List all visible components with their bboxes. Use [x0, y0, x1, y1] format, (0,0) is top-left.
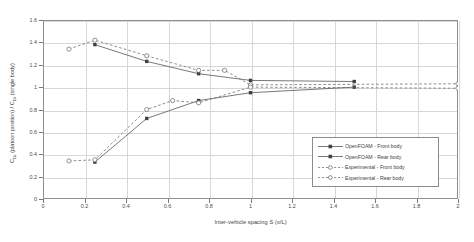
- data-point-square: [249, 91, 252, 94]
- chart-figure: 00.20.40.60.811.21.41.61.82 00.20.40.60.…: [0, 0, 474, 242]
- data-point-square: [353, 85, 356, 88]
- data-point-circle: [197, 68, 201, 72]
- x-tick-label: 0.2: [81, 203, 89, 209]
- gridline-vertical: [459, 21, 460, 198]
- data-point-circle: [456, 86, 458, 90]
- series-line: [95, 45, 354, 82]
- data-point-square: [145, 117, 148, 120]
- y-tick: [39, 110, 43, 111]
- data-point-circle: [93, 38, 97, 42]
- data-point-circle: [222, 68, 226, 72]
- y-tick: [39, 42, 43, 43]
- series-line: [69, 40, 458, 85]
- x-tick-label: 0.4: [122, 203, 130, 209]
- x-tick-label: 0: [42, 203, 45, 209]
- legend-key-openfoam-rear: [317, 152, 344, 161]
- y-tick-label: 0.2: [0, 174, 37, 180]
- x-tick-label: 0.6: [164, 203, 172, 209]
- data-point-circle: [93, 158, 97, 162]
- legend-key-experimental-front: [317, 163, 344, 172]
- y-tick-label: 1.6: [0, 17, 37, 23]
- series-2: [67, 38, 458, 87]
- y-tick: [39, 132, 43, 133]
- legend-item-experimental-front[interactable]: Experimental - Front body: [317, 162, 434, 172]
- data-point-square: [353, 80, 356, 83]
- x-tick-label: 1.2: [288, 203, 296, 209]
- y-tick-label: 0: [0, 196, 37, 202]
- x-tick-label: 2: [457, 203, 460, 209]
- legend-item-openfoam-front[interactable]: OpenFOAM - Front body: [317, 141, 434, 151]
- y-tick-label: 1: [0, 84, 37, 90]
- x-tick-label: 1.4: [330, 203, 338, 209]
- x-tick-label: 1: [249, 203, 252, 209]
- legend-item-experimental-rear[interactable]: Experimental - Rear body: [317, 173, 434, 183]
- chart-legend: OpenFOAM - Front body OpenFOAM - Rear bo…: [312, 137, 439, 187]
- data-point-circle: [171, 98, 175, 102]
- x-axis-title: Inter-vehicle spacing S (x/L): [43, 219, 458, 225]
- legend-label: Experimental - Rear body: [344, 175, 404, 181]
- data-point-square: [145, 60, 148, 63]
- y-tick-label: 0.8: [0, 107, 37, 113]
- legend-label: Experimental - Front body: [344, 164, 405, 170]
- y-tick-label: 1.2: [0, 62, 37, 68]
- data-point-circle: [456, 82, 458, 86]
- y-tick: [39, 199, 43, 200]
- y-tick: [39, 87, 43, 88]
- y-tick-label: 0.6: [0, 129, 37, 135]
- data-point-circle: [67, 159, 71, 163]
- y-tick: [39, 20, 43, 21]
- y-tick: [39, 177, 43, 178]
- data-point-circle: [248, 85, 252, 89]
- y-axis-title: CDr (platoon position) / CDr (single bod…: [9, 38, 17, 188]
- x-tick-label: 0.8: [205, 203, 213, 209]
- data-point-circle: [145, 54, 149, 58]
- legend-label: OpenFOAM - Front body: [344, 143, 402, 149]
- y-tick-label: 0.4: [0, 151, 37, 157]
- legend-key-openfoam-front: [317, 142, 344, 151]
- data-point-circle: [67, 47, 71, 51]
- x-tick-label: 1.6: [371, 203, 379, 209]
- data-point-circle: [197, 101, 201, 105]
- y-tick: [39, 65, 43, 66]
- y-tick-label: 1.4: [0, 39, 37, 45]
- legend-key-experimental-rear: [317, 173, 344, 182]
- legend-item-openfoam-rear[interactable]: OpenFOAM - Rear body: [317, 152, 434, 162]
- x-tick-label: 1.8: [413, 203, 421, 209]
- legend-label: OpenFOAM - Rear body: [344, 154, 401, 160]
- data-point-square: [93, 43, 96, 46]
- data-point-circle: [145, 107, 149, 111]
- data-point-square: [249, 79, 252, 82]
- y-tick: [39, 154, 43, 155]
- series-0: [93, 43, 356, 83]
